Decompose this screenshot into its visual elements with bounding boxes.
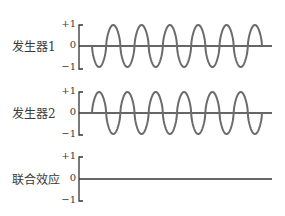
axes-panel-3 <box>79 157 272 201</box>
axes-panel-2 <box>79 92 272 135</box>
waveform-diagram <box>0 0 285 216</box>
